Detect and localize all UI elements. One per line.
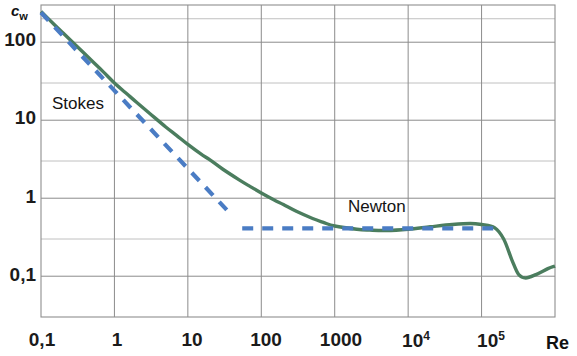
x-tick-label-0-1: 0,1 — [12, 329, 72, 351]
x-tick-label-100: 100 — [236, 329, 296, 351]
annotation-stokes: Stokes — [52, 94, 104, 114]
x-tick-label-10000: 104 — [386, 329, 446, 352]
y-tick-label-100: 100 — [0, 29, 36, 51]
x-tick-label-1: 1 — [87, 329, 147, 351]
y-tick-label-1: 1 — [0, 186, 36, 208]
x-tick-exponent-100000: 5 — [498, 329, 505, 343]
y-tick-label-10: 10 — [0, 107, 36, 129]
x-tick-exponent-10000: 4 — [423, 329, 430, 343]
y-axis-title-subscript: w — [19, 10, 28, 22]
x-tick-label-100000: 105 — [461, 329, 521, 352]
y-tick-label-0-1: 0,1 — [0, 264, 36, 286]
chart-page: 100 10 1 0,1 0,1 1 10 100 1000 104 105 c… — [0, 0, 577, 356]
y-axis-title: cw — [11, 2, 28, 22]
x-tick-mantissa-10000: 10 — [402, 330, 423, 351]
x-axis-title: Re — [546, 333, 569, 354]
x-tick-label-10: 10 — [162, 329, 222, 351]
x-tick-label-1000: 1000 — [311, 329, 371, 351]
annotation-newton: Newton — [348, 197, 406, 217]
drag-coefficient-chart — [0, 0, 577, 356]
x-tick-mantissa-100000: 10 — [477, 330, 498, 351]
